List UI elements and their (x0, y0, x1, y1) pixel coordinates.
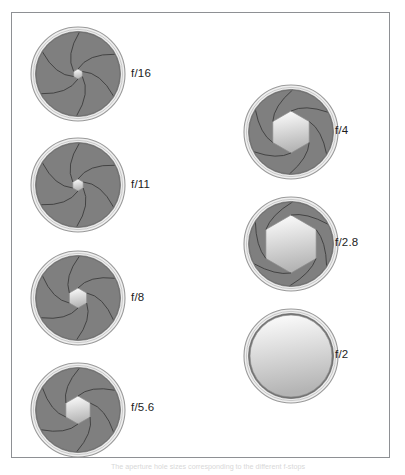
aperture-label-f16: f/16 (131, 68, 151, 80)
aperture-label-f11: f/11 (131, 179, 150, 191)
aperture-item-f8 (27, 247, 129, 349)
aperture-diagram-f2 (240, 305, 342, 407)
aperture-diagram-f16 (27, 23, 129, 125)
aperture-label-f8: f/8 (131, 292, 144, 304)
aperture-diagram-f4 (240, 81, 342, 183)
illustration-frame: f/16f/11f/8f/5.6f/4f/2.8f/2 (11, 12, 390, 458)
aperture-label-f2: f/2 (335, 349, 348, 361)
aperture-item-f4 (240, 81, 342, 183)
aperture-item-f16 (27, 23, 129, 125)
aperture-opening (250, 315, 332, 397)
aperture-diagram-f8 (27, 247, 129, 349)
aperture-diagram-f11 (27, 134, 129, 236)
aperture-item-f28 (240, 193, 342, 295)
figure-caption: The aperture hole sizes corresponding to… (58, 462, 358, 471)
aperture-opening (74, 69, 83, 79)
aperture-opening (73, 179, 83, 191)
aperture-item-f2 (240, 305, 342, 407)
aperture-diagram-f28 (240, 193, 342, 295)
aperture-label-f4: f/4 (335, 125, 348, 137)
aperture-label-f28: f/2.8 (335, 237, 358, 249)
aperture-diagram-f56 (27, 359, 129, 461)
aperture-figure-root: f/16f/11f/8f/5.6f/4f/2.8f/2 The aperture… (0, 0, 405, 475)
aperture-item-f11 (27, 134, 129, 236)
aperture-label-f56: f/5.6 (131, 402, 154, 414)
aperture-item-f56 (27, 359, 129, 461)
